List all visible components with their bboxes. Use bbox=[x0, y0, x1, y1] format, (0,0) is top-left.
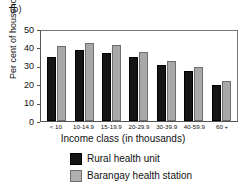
bar bbox=[157, 65, 166, 121]
chart-legend: Rural health unitBarangay health station bbox=[0, 150, 246, 184]
y-tick-label: 50 bbox=[24, 26, 34, 35]
bar-group bbox=[184, 31, 203, 121]
bar bbox=[102, 53, 111, 121]
legend-item: Rural health unit bbox=[0, 150, 246, 167]
bar-group bbox=[129, 31, 148, 121]
y-tick-label: 20 bbox=[24, 81, 34, 90]
bar-group bbox=[157, 31, 176, 121]
plot-area bbox=[40, 30, 238, 122]
bar bbox=[85, 43, 94, 121]
y-tick-label: 40 bbox=[24, 44, 34, 53]
legend-swatch bbox=[70, 153, 82, 165]
bar bbox=[194, 67, 203, 121]
x-axis-title: Income class (in thousands) bbox=[0, 133, 246, 144]
bar-groups bbox=[41, 31, 237, 121]
bar-group bbox=[102, 31, 121, 121]
bar-group bbox=[75, 31, 94, 121]
y-tick-label: 0 bbox=[29, 118, 34, 127]
bar bbox=[184, 71, 193, 121]
bar-group bbox=[47, 31, 66, 121]
bar bbox=[57, 46, 66, 121]
bar bbox=[112, 45, 121, 121]
bar bbox=[212, 85, 221, 121]
y-tick-label: 30 bbox=[24, 62, 34, 71]
bar-group bbox=[212, 31, 231, 121]
bar bbox=[47, 57, 56, 121]
bar bbox=[167, 61, 176, 121]
y-axis-ticks: 01020304050 bbox=[0, 24, 38, 124]
chart-figure: (b) Per cent of households 01020304050 <… bbox=[0, 0, 246, 186]
legend-label: Rural health unit bbox=[87, 153, 160, 164]
bar bbox=[222, 81, 231, 121]
legend-label: Barangay health station bbox=[87, 170, 192, 181]
legend-item: Barangay health station bbox=[0, 167, 246, 184]
bar bbox=[129, 57, 138, 121]
y-tick-label: 10 bbox=[24, 99, 34, 108]
bar bbox=[75, 50, 84, 121]
bar bbox=[139, 52, 148, 121]
legend-swatch bbox=[70, 170, 82, 182]
